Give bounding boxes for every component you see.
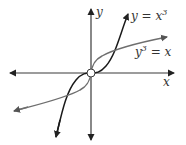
y-axis-label: y [95, 5, 103, 19]
label-y-cubed-equals-x-rest: = x [147, 45, 172, 59]
chart-canvas: y x y = x3 y3 = x [0, 0, 186, 145]
label-y-equals-x-cubed-sup: 3 [162, 8, 167, 17]
label-y-equals-x-cubed-text: y = x [130, 9, 162, 23]
label-y-equals-x-cubed: y = x3 [130, 8, 167, 23]
x-axis-label: x [163, 75, 170, 89]
curve-y-cubed-equals-x-start-arrow [14, 107, 28, 111]
origin-open-circle [87, 69, 95, 77]
curve-y-equals-x-cubed-start-arrow [56, 120, 60, 137]
label-y-cubed-equals-x: y3 = x [134, 44, 172, 59]
chart: y x y = x3 y3 = x [0, 0, 186, 145]
